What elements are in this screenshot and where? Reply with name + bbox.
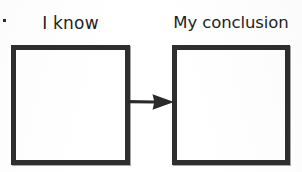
answer-box-conclusion[interactable] xyxy=(172,45,290,165)
column-label-conclusion: My conclusion xyxy=(168,10,294,36)
scan-speck-artifact xyxy=(3,19,6,22)
answer-box-known[interactable] xyxy=(11,45,130,165)
arrow-shape xyxy=(128,94,174,110)
column-label-known: I know xyxy=(11,10,130,36)
graphic-organizer-worksheet: I know My conclusion xyxy=(0,0,302,172)
arrow-right-icon xyxy=(128,88,176,116)
arrow-right-glyph xyxy=(128,88,176,116)
